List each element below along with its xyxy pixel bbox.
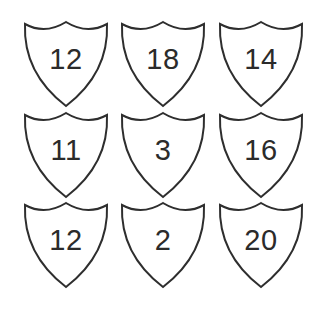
shield-number: 2 [120, 224, 206, 256]
shield-number: 16 [218, 134, 304, 166]
shield-number: 14 [218, 43, 304, 75]
shield-9: 20 [218, 202, 304, 288]
shield-number: 12 [23, 43, 109, 75]
shield-number: 12 [23, 224, 109, 256]
shield-number: 18 [120, 43, 206, 75]
shield-5: 3 [120, 112, 206, 198]
shield-2: 18 [120, 21, 206, 107]
shield-number: 20 [218, 224, 304, 256]
shield-number: 11 [23, 134, 109, 166]
shield-4: 11 [23, 112, 109, 198]
shield-6: 16 [218, 112, 304, 198]
shield-7: 12 [23, 202, 109, 288]
shield-8: 2 [120, 202, 206, 288]
shield-1: 12 [23, 21, 109, 107]
shield-number: 3 [120, 134, 206, 166]
shield-3: 14 [218, 21, 304, 107]
